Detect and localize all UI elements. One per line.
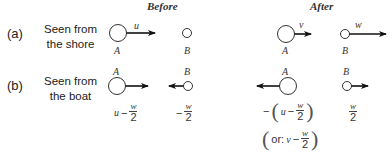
row-b-after-b-velocity-expr: w2: [349, 102, 357, 123]
row-b-before-ball-b: [169, 82, 193, 91]
row-a-after-ball-a: [278, 26, 312, 43]
collision-diagram: [0, 0, 392, 164]
row-b-after-a-alt-expr: ( or: v − w2 ): [262, 128, 318, 150]
row-a-after-ball-b: [341, 30, 387, 39]
row-a-after-a-velocity: v: [299, 19, 303, 30]
row-b-before-a-label: A: [113, 66, 119, 77]
row-a-before-ball-a: [110, 25, 156, 42]
row-a-before-a-label: A: [114, 45, 120, 56]
row-b-before-b-label: B: [184, 66, 190, 77]
row-a-before-ball-b: [183, 29, 192, 38]
row-b-before-b-velocity-expr: − w2: [176, 102, 192, 123]
row-a-after-b-label: B: [342, 45, 348, 56]
row-b-after-a-velocity-expr: − ( u − w2 ): [263, 100, 314, 122]
row-b-before-ball-a: [109, 78, 149, 95]
row-a-after-a-label: A: [282, 45, 288, 56]
row-b-before-a-velocity-expr: u − w2: [114, 102, 137, 123]
row-a-before-b-label: B: [184, 45, 190, 56]
row-a-after-b-velocity: w: [355, 19, 362, 30]
row-a-before-a-velocity: u: [134, 20, 139, 31]
row-b-after-a-label: A: [282, 66, 288, 77]
row-b-after-ball-b: [343, 82, 369, 91]
row-b-after-b-label: B: [343, 66, 349, 77]
row-b-after-ball-a: [257, 78, 297, 95]
